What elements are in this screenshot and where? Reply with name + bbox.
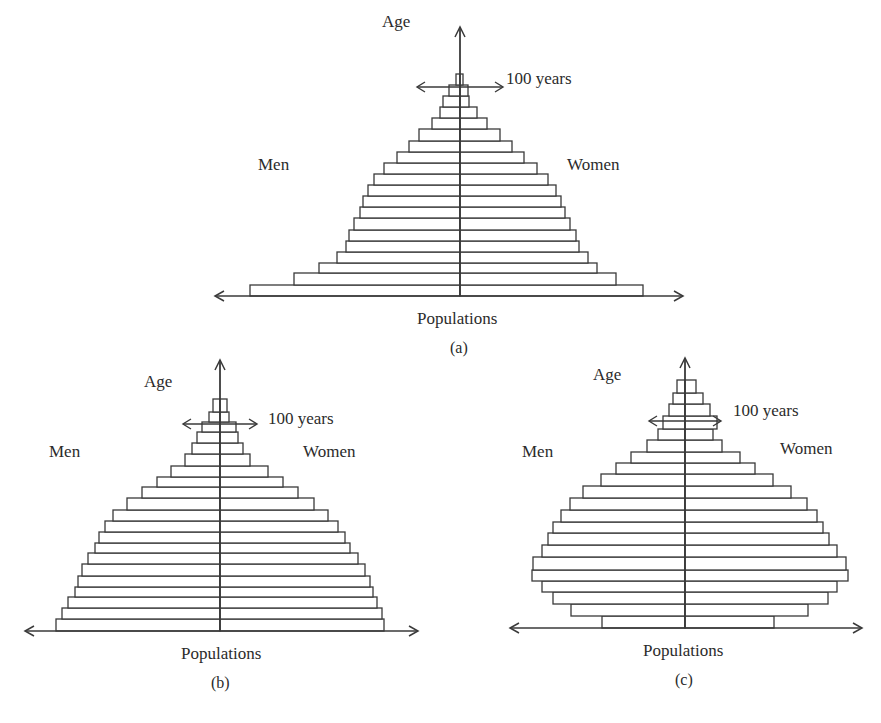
men-bar [532,570,685,581]
men-bar [113,510,220,521]
men-bar [99,532,220,543]
men-bar [673,393,685,404]
women-bar [220,454,250,466]
men-bar [78,576,220,587]
women-bar [220,564,365,576]
women-bar [460,252,588,263]
men-bar [171,466,220,477]
men-bar [553,592,685,604]
women-bar [685,545,837,557]
women-bar [220,521,338,532]
pyramid-b [25,360,418,636]
men-label-b: Men [49,443,80,460]
men-bar [669,404,685,416]
men-bar [368,185,460,196]
women-bar [460,96,469,107]
women-bar [460,185,556,196]
women-bar [220,597,377,608]
women-bar [460,141,512,152]
women-bar [685,592,828,604]
caption-c: (c) [675,672,693,688]
men-bar [647,440,685,452]
women-bar [220,432,238,443]
women-label-c: Women [780,440,832,457]
men-bar [658,429,685,440]
women-bar [220,532,345,543]
men-bar [68,597,220,608]
women-bar [220,466,268,477]
age-axis-label-b: Age [144,373,172,390]
men-bar [409,141,460,152]
women-bar [460,207,565,218]
men-bar [360,207,460,218]
women-bar [220,399,227,412]
population-pyramids-figure [0,0,881,723]
women-bar [460,230,576,241]
caption-a: (a) [450,340,468,356]
men-bar [602,616,685,628]
women-bar [460,163,537,174]
women-bar [685,463,755,474]
populations-axis-label-a: Populations [417,310,497,327]
women-bar [220,576,370,587]
age-axis-label-c: Age [593,366,621,383]
men-bar [677,380,685,393]
women-bar [685,570,848,581]
men-bar [533,557,685,570]
men-bar [337,252,460,263]
women-bar [685,429,713,440]
women-bar [220,477,283,487]
men-bar [583,486,685,498]
women-bar [220,608,382,619]
men-bar [250,285,460,296]
men-bar [88,553,220,564]
men-bar [663,416,685,429]
men-bar [601,474,685,486]
men-bar [294,273,460,285]
women-bar [685,474,773,486]
women-bar [460,174,548,185]
men-bar [631,452,685,463]
women-bar [460,107,477,118]
women-bar [460,118,487,129]
women-bar [460,241,579,252]
women-bar [220,543,350,553]
men-bar [542,581,685,592]
women-bar [460,263,597,273]
men-bar [354,218,460,230]
women-bar [460,129,500,141]
women-bar [460,152,524,163]
men-bar [561,510,685,522]
men-bar [440,107,460,118]
men-bar [346,241,460,252]
caption-b: (b) [211,675,230,691]
populations-axis-label-b: Populations [181,645,261,662]
women-bar [220,498,314,510]
men-bar [213,399,220,412]
men-bar [432,118,460,129]
populations-axis-label-c: Populations [643,642,723,659]
marker-label-b: 100 years [268,410,334,427]
men-bar [95,543,220,553]
men-label-a: Men [258,156,289,173]
women-bar [685,581,837,592]
women-bar [220,553,358,564]
men-label-c: Men [522,443,553,460]
women-bar [460,273,616,285]
women-bar [685,522,823,533]
women-bar [685,486,791,498]
women-bar [685,557,846,570]
men-bar [192,443,220,454]
women-bar [685,404,710,416]
women-bar [685,393,703,404]
men-bar [419,129,460,141]
women-bar [685,533,829,545]
men-bar [197,432,220,443]
men-bar [82,564,220,576]
women-bar [685,616,774,628]
men-bar [542,545,685,557]
age-axis-label-a: Age [382,13,410,30]
women-bar [220,443,243,454]
men-bar [127,498,220,510]
women-bar [460,218,570,230]
